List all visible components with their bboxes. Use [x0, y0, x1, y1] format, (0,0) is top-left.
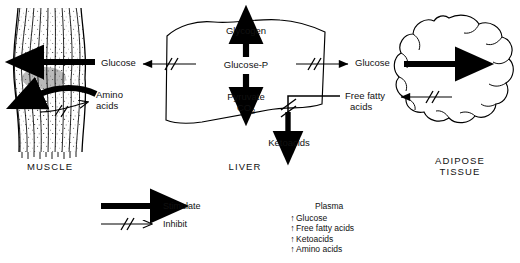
muscle-illustration — [10, 4, 92, 159]
adipose-illustration — [394, 15, 513, 123]
diagram-canvas: Glycogen Glucose-P Pyruvate CO2 Ketoacid… — [0, 0, 520, 263]
legend-label-stimulate: Stimulate — [163, 201, 201, 211]
organ-label-muscle: MUSCLE — [10, 161, 90, 172]
flux-label-muscle-glucose: Glucose — [101, 58, 136, 69]
flux-label-muscle-amino-line1: Amino — [96, 90, 123, 101]
liver-label-glucose-p: Glucose-P — [211, 60, 281, 71]
plasma-item-marker: ↑ — [289, 224, 296, 234]
liver-label-ketoacids: Ketoacids — [258, 138, 320, 149]
liver-label-glycogen: Glycogen — [214, 26, 278, 37]
legend-inhibit-arrow — [101, 218, 152, 230]
plasma-item: ↑Free fatty acids — [289, 224, 354, 234]
organ-label-adipose-line2: TISSUE — [420, 166, 500, 177]
flux-label-adipose-ffa-line1: Free fatty — [345, 91, 385, 102]
liver-label-pyruvate: Pyruvate — [216, 92, 276, 103]
flux-label-muscle-amino-line2: acids — [96, 101, 118, 112]
liver-label-co2: CO2 — [216, 103, 276, 117]
legend-label-inhibit: Inhibit — [163, 219, 187, 229]
plasma-item: ↑Glucose — [289, 214, 327, 224]
plasma-item-marker: ↑ — [289, 214, 296, 224]
diagram-vector-layer — [0, 0, 520, 263]
co2-text: CO — [237, 102, 251, 113]
co2-subscript: 2 — [251, 108, 255, 115]
plasma-item: ↑Ketoacids — [289, 235, 333, 245]
plasma-item: ↑Amino acids — [289, 245, 342, 255]
plasma-item-label: Amino acids — [296, 244, 342, 254]
plasma-header: Plasma — [315, 201, 343, 211]
plasma-item-label: Ketoacids — [296, 234, 333, 244]
organ-label-adipose-line1: ADIPOSE — [420, 155, 500, 166]
plasma-item-label: Glucose — [296, 213, 327, 223]
flux-label-adipose-glucose: Glucose — [355, 58, 390, 69]
plasma-item-marker: ↑ — [289, 245, 296, 255]
flux-label-adipose-ffa-line2: acids — [350, 102, 372, 113]
plasma-item-marker: ↑ — [289, 235, 296, 245]
plasma-item-label: Free fatty acids — [296, 223, 354, 233]
organ-label-liver: LIVER — [215, 161, 275, 172]
